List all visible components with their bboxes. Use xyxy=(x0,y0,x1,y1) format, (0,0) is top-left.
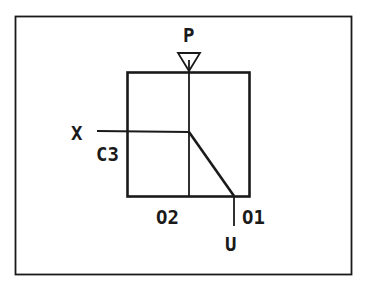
label-o1: O1 xyxy=(242,206,265,228)
label-x: X xyxy=(71,122,83,144)
label-c3: C3 xyxy=(96,143,119,165)
x-input-line xyxy=(97,131,189,132)
diagram-canvas: P X C3 O2 O1 U xyxy=(0,0,365,290)
label-u: U xyxy=(225,233,236,255)
label-o2: O2 xyxy=(156,206,179,228)
diagonal-line xyxy=(189,132,234,196)
label-p: P xyxy=(183,24,194,46)
outer-frame xyxy=(16,17,352,275)
